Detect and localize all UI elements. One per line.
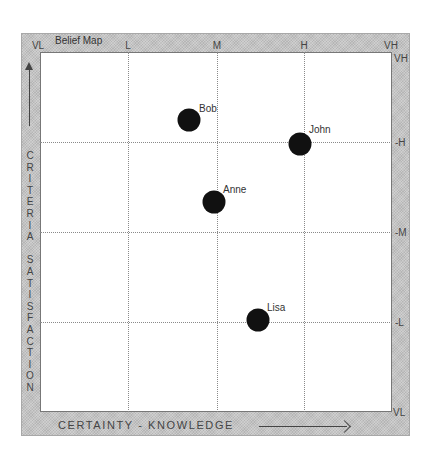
- y-label-letter: O: [22, 370, 38, 382]
- y-tick-h: -H: [395, 137, 406, 148]
- y-axis-label: C R I T E R I A S A T I S F A C T I O N: [22, 150, 38, 393]
- grid-line-y-m: [40, 232, 392, 233]
- data-label-john: John: [309, 124, 331, 135]
- y-label-letter: N: [22, 382, 38, 394]
- y-label-letter: I: [22, 289, 38, 301]
- y-label-letter: C: [22, 150, 38, 162]
- y-label-letter: T: [22, 185, 38, 197]
- y-label-spacer: [22, 243, 38, 255]
- y-label-letter: A: [22, 231, 38, 243]
- data-label-lisa: Lisa: [267, 302, 285, 313]
- y-label-letter: I: [22, 173, 38, 185]
- y-label-letter: F: [22, 312, 38, 324]
- data-point-john[interactable]: [289, 133, 312, 156]
- y-tick-vl: VL: [393, 407, 405, 418]
- data-label-bob: Bob: [199, 103, 217, 114]
- y-axis-arrow-icon: [29, 64, 30, 126]
- x-tick-vl: VL: [32, 40, 44, 51]
- y-label-letter: E: [22, 196, 38, 208]
- x-tick-h: H: [300, 40, 307, 51]
- y-label-letter: A: [22, 266, 38, 278]
- chart-title: Belief Map: [55, 35, 102, 46]
- data-point-bob[interactable]: [178, 109, 201, 132]
- y-label-letter: T: [22, 278, 38, 290]
- grid-line-y-l: [40, 322, 392, 323]
- y-label-letter: C: [22, 336, 38, 348]
- grid-line-y-h: [40, 142, 392, 143]
- y-label-letter: S: [22, 254, 38, 266]
- y-label-letter: R: [22, 208, 38, 220]
- x-axis-arrow-icon: [259, 426, 347, 427]
- x-tick-m: M: [213, 40, 221, 51]
- y-label-letter: I: [22, 359, 38, 371]
- data-label-anne: Anne: [223, 184, 246, 195]
- y-label-letter: I: [22, 220, 38, 232]
- y-label-letter: R: [22, 162, 38, 174]
- x-tick-l: L: [125, 40, 131, 51]
- x-axis-label: CERTAINTY - KNOWLEDGE: [58, 419, 234, 431]
- y-label-letter: T: [22, 347, 38, 359]
- y-tick-l: -L: [395, 317, 404, 328]
- y-tick-m: -M: [395, 227, 407, 238]
- y-label-letter: S: [22, 301, 38, 313]
- y-tick-vh: VH: [394, 53, 408, 64]
- x-tick-vh: VH: [384, 40, 398, 51]
- y-label-letter: A: [22, 324, 38, 336]
